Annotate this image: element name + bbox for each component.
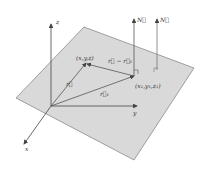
plane-diagram: z y x (x,y,z) (x₁,y₁,z₁) r⃗ r⃗₁ r⃗ − r⃗₁… xyxy=(0,0,207,170)
y-axis-label: y xyxy=(132,109,137,117)
vector-diff-label: r⃗ − r⃗₁ xyxy=(108,57,132,65)
normal-1-label: N⃗ xyxy=(136,16,146,24)
normal-2-label: N⃗ xyxy=(159,16,169,24)
vector-r-label: r⃗ xyxy=(66,80,73,88)
x-axis-label: x xyxy=(25,145,29,152)
point-p-label: (x,y,z) xyxy=(76,54,94,62)
z-axis-label: z xyxy=(55,18,60,25)
point-p1-label: (x₁,y₁,z₁) xyxy=(135,82,161,90)
vector-r1-label: r⃗₁ xyxy=(100,90,109,98)
x-axis xyxy=(24,106,51,144)
